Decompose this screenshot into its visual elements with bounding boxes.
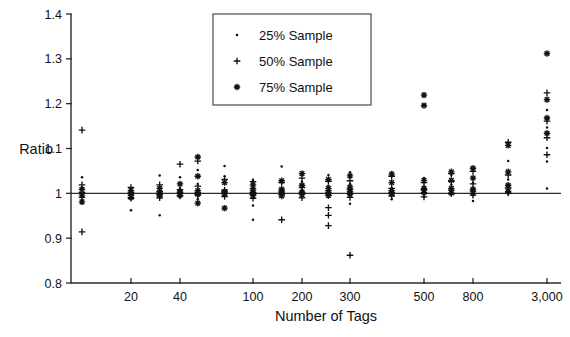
point-2-19 — [221, 191, 227, 197]
point-0-69 — [546, 160, 549, 163]
point-2-37 — [347, 173, 353, 179]
x-tick-label-200: 200 — [292, 290, 313, 304]
point-1-69 — [544, 90, 551, 97]
cropped-caption — [0, 328, 570, 337]
x-tick-label-300: 300 — [340, 290, 361, 304]
point-0-18 — [223, 165, 226, 168]
point-1-48 — [347, 252, 354, 259]
point-2-63 — [544, 96, 550, 102]
point-2-12 — [195, 154, 201, 160]
x-tick-label-500: 500 — [414, 290, 435, 304]
point-2-62 — [544, 50, 550, 56]
x-tick-label-800: 800 — [463, 290, 484, 304]
point-1-0 — [79, 127, 86, 134]
point-0-67 — [546, 126, 549, 129]
point-0-27 — [252, 219, 255, 222]
point-0-5 — [130, 209, 133, 212]
point-1-13 — [177, 161, 184, 168]
legend-marker-dot — [236, 34, 239, 37]
point-2-59 — [505, 169, 511, 175]
point-2-44 — [388, 191, 394, 197]
point-1-42 — [325, 212, 332, 219]
point-0-66 — [546, 109, 549, 112]
point-2-11 — [177, 192, 183, 198]
point-2-2 — [79, 199, 85, 205]
point-1-4 — [79, 229, 86, 236]
x-tick-label-100: 100 — [243, 290, 264, 304]
x-tick-label-40: 40 — [173, 290, 187, 304]
point-2-9 — [177, 181, 183, 187]
point-2-1 — [79, 192, 85, 198]
point-0-63 — [507, 178, 510, 181]
point-2-42 — [388, 179, 394, 185]
point-2-45 — [421, 92, 427, 98]
point-2-29 — [299, 170, 305, 176]
point-2-16 — [195, 200, 201, 206]
point-2-33 — [325, 176, 331, 182]
point-2-51 — [448, 177, 454, 183]
point-2-55 — [470, 175, 476, 181]
point-0-0 — [81, 176, 84, 179]
point-2-54 — [470, 165, 476, 171]
series-dot — [81, 109, 549, 221]
point-2-13 — [195, 173, 201, 179]
chart-canvas: 1.41.31.21.110.90.8 20401002003005008003… — [0, 0, 570, 337]
legend-label-2: 75% Sample — [259, 80, 333, 95]
point-2-60 — [505, 182, 511, 188]
x-tick-label-20: 20 — [124, 290, 138, 304]
point-0-28 — [280, 165, 283, 168]
point-2-41 — [388, 171, 394, 177]
y-tick-label-1.3: 1.3 — [45, 52, 62, 66]
point-0-44 — [349, 202, 352, 205]
x-axis-title: Number of Tags — [275, 308, 377, 324]
point-2-64 — [544, 115, 550, 121]
point-0-68 — [546, 147, 549, 150]
point-2-24 — [250, 192, 256, 198]
scatter-plot-figure: 1.41.31.21.110.90.8 20401002003005008003… — [0, 0, 570, 337]
point-2-0 — [79, 186, 85, 192]
point-0-10 — [179, 176, 182, 179]
point-2-47 — [421, 177, 427, 183]
legend: 25% Sample50% Sample75% Sample — [213, 14, 371, 105]
y-tick-label-1.2: 1.2 — [45, 97, 62, 111]
legend-label-1: 50% Sample — [259, 54, 333, 69]
point-2-46 — [421, 102, 427, 108]
point-0-9 — [158, 214, 161, 217]
point-2-65 — [544, 130, 550, 136]
point-2-49 — [421, 189, 427, 195]
y-tick-label-0.9: 0.9 — [45, 232, 62, 246]
point-2-28 — [278, 193, 284, 199]
point-0-62 — [507, 160, 510, 163]
y-tick-label-1: 1 — [55, 187, 62, 201]
point-2-25 — [278, 178, 284, 184]
point-1-41 — [325, 204, 332, 211]
point-2-32 — [299, 191, 305, 197]
point-0-61 — [472, 200, 475, 203]
point-2-61 — [505, 188, 511, 194]
point-0-70 — [546, 187, 549, 190]
point-2-36 — [325, 192, 331, 198]
y-tick-label-0.8: 0.8 — [45, 277, 62, 291]
series-plus — [79, 90, 551, 259]
point-2-40 — [347, 191, 353, 197]
point-2-57 — [470, 190, 476, 196]
y-axis-title: Ratio — [19, 141, 53, 157]
y-tick-label-1.4: 1.4 — [45, 8, 62, 22]
point-2-8 — [156, 193, 162, 199]
point-2-15 — [195, 191, 201, 197]
point-2-5 — [128, 194, 134, 200]
axis-titles: RatioNumber of Tags — [19, 141, 377, 325]
point-2-20 — [221, 205, 227, 211]
legend-marker-star — [234, 84, 240, 90]
point-2-53 — [448, 190, 454, 196]
point-2-17 — [221, 179, 227, 185]
point-0-6 — [158, 174, 161, 177]
point-0-26 — [252, 204, 255, 207]
legend-label-0: 25% Sample — [259, 28, 333, 43]
point-2-50 — [448, 169, 454, 175]
point-2-58 — [505, 142, 511, 148]
point-0-36 — [327, 174, 330, 177]
point-0-14 — [197, 169, 200, 172]
x-tick-label-3,000: 3,000 — [531, 290, 562, 304]
point-1-33 — [278, 216, 285, 223]
